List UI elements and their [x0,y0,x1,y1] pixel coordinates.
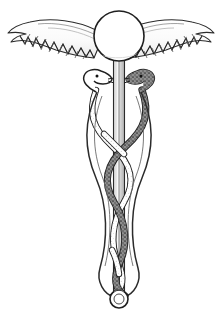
orb [94,11,144,61]
finial-ring-inner [114,294,124,304]
serpent-head-left-eye [96,75,99,78]
finial-ring [110,290,128,308]
caduceus-illustration [0,0,222,331]
caduceus-figure [0,0,222,331]
serpent-head-right-eye [140,75,143,78]
orb-body [94,11,144,61]
